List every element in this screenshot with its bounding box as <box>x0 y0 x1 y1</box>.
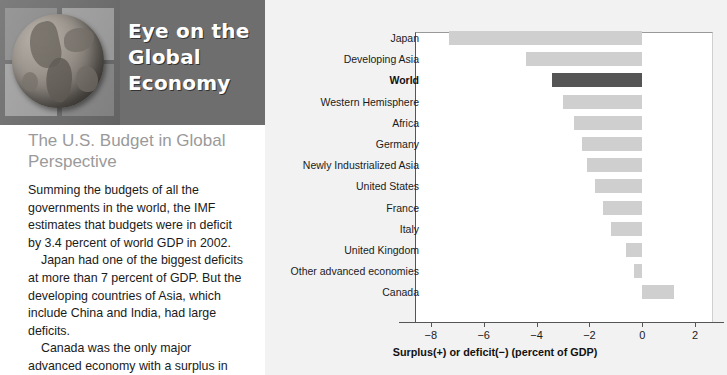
page-title: The U.S. Budget in Global Perspective <box>28 130 246 172</box>
article-paragraph-3: Canada was the only major advanced econo… <box>28 340 246 375</box>
article-body: The U.S. Budget in Global Perspective Su… <box>28 130 246 375</box>
globe-shading <box>0 0 120 125</box>
category-label-canada: Canada <box>382 286 419 298</box>
masthead-line-1: Eye on the <box>128 18 258 44</box>
globe-icon <box>0 0 120 125</box>
x-tick-mark <box>642 322 643 327</box>
masthead-band: Eye on the Global Economy <box>0 0 265 125</box>
category-label-italy: Italy <box>400 223 419 235</box>
category-label-france: France <box>386 202 419 214</box>
x-tick-label: −2 <box>583 329 596 341</box>
bar-africa <box>574 116 643 130</box>
page-root: Eye on the Global Economy The U.S. Budge… <box>0 0 727 375</box>
category-label-other-advanced-economies: Other advanced economies <box>291 265 419 277</box>
masthead-line-2: Global <box>128 44 258 70</box>
bar-developing-asia <box>526 52 642 66</box>
bar-united-kingdom <box>626 243 642 257</box>
bar-canada <box>642 285 674 299</box>
x-tick-mark <box>431 322 432 327</box>
x-tick-label: 2 <box>692 329 698 341</box>
x-tick-label: −8 <box>425 329 438 341</box>
x-tick-mark <box>695 322 696 327</box>
bar-other-advanced-economies <box>634 264 642 278</box>
category-label-developing-asia: Developing Asia <box>344 53 419 65</box>
x-tick-mark <box>537 322 538 327</box>
x-tick-label: −4 <box>530 329 543 341</box>
masthead-title: Eye on the Global Economy <box>128 18 258 96</box>
bar-japan <box>449 31 642 45</box>
bar-france <box>603 201 643 215</box>
bar-western-hemisphere <box>563 95 642 109</box>
category-label-united-states: United States <box>356 180 419 192</box>
article-paragraph-1: Summing the budgets of all the governmen… <box>28 182 246 252</box>
x-axis-title: Surplus(+) or deficit(−) (percent of GDP… <box>269 346 721 358</box>
category-label-japan: Japan <box>390 32 419 44</box>
x-tick-label: 0 <box>639 329 645 341</box>
chart-panel: JapanDeveloping AsiaWorldWestern Hemisph… <box>265 0 727 375</box>
category-label-germany: Germany <box>376 138 419 150</box>
article-paragraph-2: Japan had one of the biggest deficits at… <box>28 252 246 340</box>
chart-figure: JapanDeveloping AsiaWorldWestern Hemisph… <box>269 10 721 365</box>
bar-germany <box>582 137 643 151</box>
category-label-western-hemisphere: Western Hemisphere <box>321 96 419 108</box>
bar-newly-industrialized-asia <box>587 158 643 172</box>
masthead-line-3: Economy <box>128 70 258 96</box>
bar-world <box>552 73 642 87</box>
category-label-newly-industrialized-asia: Newly Industrialized Asia <box>303 159 419 171</box>
category-label-africa: Africa <box>392 117 419 129</box>
x-tick-label: −6 <box>477 329 490 341</box>
x-axis-line <box>399 322 724 323</box>
bar-italy <box>611 222 643 236</box>
article-column: Eye on the Global Economy The U.S. Budge… <box>0 0 265 375</box>
bar-united-states <box>595 179 643 193</box>
category-label-united-kingdom: United Kingdom <box>344 244 419 256</box>
category-label-world: World <box>389 74 419 86</box>
x-tick-mark <box>589 322 590 327</box>
x-tick-mark <box>484 322 485 327</box>
